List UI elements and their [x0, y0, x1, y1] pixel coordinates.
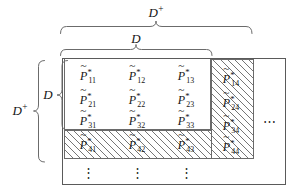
matrix-cell-41: ~P*41: [80, 139, 96, 151]
brace-top-d-plus-label: D+: [148, 5, 163, 21]
brace-top-d-plus-path: [61, 21, 253, 34]
matrix-cell-12: ~P*12: [129, 70, 145, 82]
p-tilde-star-symbol: ~P: [178, 138, 185, 152]
p-tilde-star-symbol: ~P: [129, 69, 136, 83]
matrix-cell-31: ~P*31: [80, 115, 96, 127]
label-text: D: [131, 31, 140, 46]
brace-left-d-plus-label: D+: [12, 103, 27, 119]
matrix-cell-13: ~P*13: [178, 70, 194, 82]
p-tilde-star-symbol: ~P: [223, 72, 230, 86]
matrix-cell-43: ~P*43: [178, 139, 194, 151]
matrix-block-diagram: ~P*11 ~P*12 ~P*13 ~P*14 ~P*21 ~P*22 ~P*2…: [0, 0, 301, 191]
matrix-cell-11: ~P*11: [80, 70, 96, 82]
p-tilde-star-symbol: ~P: [80, 69, 87, 83]
horizontal-ellipsis: ⋯: [263, 115, 277, 128]
p-tilde-star-symbol: ~P: [223, 140, 230, 154]
vertical-ellipsis-col2: ⋮: [131, 166, 144, 179]
matrix-cell-14: ~P*14: [223, 73, 239, 85]
p-tilde-star-symbol: ~P: [129, 114, 136, 128]
matrix-cell-24: ~P*24: [223, 97, 239, 109]
label-text: D: [148, 5, 157, 20]
label-text: D: [12, 103, 21, 118]
brace-left-d-plus-path: [34, 61, 45, 163]
p-tilde-star-symbol: ~P: [129, 138, 136, 152]
p-tilde-star-symbol: ~P: [80, 138, 87, 152]
p-tilde-star-symbol: ~P: [80, 114, 87, 128]
matrix-cell-42: ~P*42: [129, 139, 145, 151]
label-sup: +: [158, 4, 163, 14]
vertical-ellipsis-col3: ⋮: [180, 166, 193, 179]
vertical-ellipsis-col1: ⋮: [82, 166, 95, 179]
p-tilde-star-symbol: ~P: [178, 69, 185, 83]
matrix-cell-32: ~P*32: [129, 115, 145, 127]
brace-left-d-label: D: [43, 87, 52, 103]
p-tilde-star-symbol: ~P: [178, 114, 185, 128]
brace-top-d-label: D: [131, 31, 140, 47]
label-sup: +: [22, 102, 27, 112]
matrix-cell-33: ~P*33: [178, 115, 194, 127]
matrix-cell-44: ~P*44: [223, 141, 239, 153]
label-text: D: [43, 87, 52, 102]
